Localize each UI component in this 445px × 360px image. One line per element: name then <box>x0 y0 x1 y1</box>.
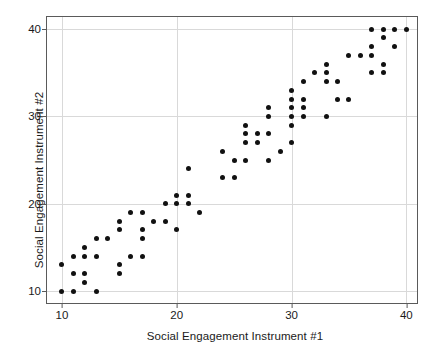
data-point <box>186 201 191 206</box>
data-point <box>163 201 168 206</box>
gridline-horizontal-20 <box>47 204 417 205</box>
data-point <box>232 175 237 180</box>
x-tick-40: 40 <box>400 309 413 321</box>
data-point <box>369 27 374 32</box>
data-point <box>220 175 225 180</box>
scatter-plot-figure: Social Engagement Instrument #2 10203040… <box>0 0 445 360</box>
data-point <box>174 193 179 198</box>
data-point <box>82 254 87 259</box>
x-tick-30: 30 <box>285 309 298 321</box>
data-point <box>82 280 87 285</box>
data-point <box>289 114 294 119</box>
data-point <box>59 289 64 294</box>
data-point <box>94 254 99 259</box>
data-point <box>163 219 168 224</box>
data-point <box>358 53 363 58</box>
gridline-horizontal-10 <box>47 291 417 292</box>
data-point <box>392 27 397 32</box>
x-axis-title: Social Engagement Instrument #1 <box>62 330 408 342</box>
data-point <box>94 289 99 294</box>
data-point <box>289 88 294 93</box>
data-point <box>266 158 271 163</box>
y-tick-10: 10 <box>28 285 41 297</box>
data-point <box>59 262 64 267</box>
data-point <box>335 97 340 102</box>
gridline-vertical-20 <box>177 17 178 303</box>
data-point <box>94 236 99 241</box>
data-point <box>369 53 374 58</box>
data-point <box>266 114 271 119</box>
data-point <box>324 62 329 67</box>
data-point <box>312 70 317 75</box>
data-point <box>71 289 76 294</box>
gridline-vertical-40 <box>406 17 407 303</box>
y-tick-40: 40 <box>28 23 41 35</box>
data-point <box>346 53 351 58</box>
data-point <box>266 131 271 136</box>
data-point <box>301 114 306 119</box>
data-point <box>140 236 145 241</box>
data-point <box>82 245 87 250</box>
data-point <box>381 70 386 75</box>
y-tick-30: 30 <box>28 110 41 122</box>
data-point <box>278 149 283 154</box>
data-point <box>151 219 156 224</box>
data-point <box>324 70 329 75</box>
data-point <box>301 97 306 102</box>
data-point <box>324 114 329 119</box>
data-point <box>369 44 374 49</box>
data-point <box>117 271 122 276</box>
data-point <box>255 140 260 145</box>
plot-panel: 10203040 10203040 <box>46 16 418 304</box>
data-point <box>117 262 122 267</box>
data-point <box>197 210 202 215</box>
data-point <box>301 105 306 110</box>
data-point <box>71 254 76 259</box>
data-point <box>243 140 248 145</box>
data-point <box>381 27 386 32</box>
data-point <box>140 210 145 215</box>
data-point <box>381 62 386 67</box>
data-point <box>174 227 179 232</box>
data-point <box>117 227 122 232</box>
x-tick-10: 10 <box>56 309 69 321</box>
data-point <box>289 97 294 102</box>
data-point <box>243 123 248 128</box>
data-point <box>266 105 271 110</box>
data-point <box>289 123 294 128</box>
data-point <box>255 131 260 136</box>
data-point <box>105 236 110 241</box>
data-point <box>71 271 76 276</box>
data-point <box>82 271 87 276</box>
data-point <box>128 254 133 259</box>
data-point <box>335 79 340 84</box>
gridline-horizontal-40 <box>47 29 417 30</box>
data-point <box>140 254 145 259</box>
data-point <box>174 201 179 206</box>
data-point <box>289 105 294 110</box>
data-point <box>381 35 386 40</box>
data-point <box>186 193 191 198</box>
gridline-vertical-30 <box>292 17 293 303</box>
data-point <box>220 149 225 154</box>
data-point <box>243 158 248 163</box>
data-point <box>289 140 294 145</box>
data-point <box>140 227 145 232</box>
gridline-horizontal-30 <box>47 116 417 117</box>
data-point <box>243 131 248 136</box>
data-point <box>301 79 306 84</box>
data-point <box>369 70 374 75</box>
data-point <box>128 210 133 215</box>
y-tick-20: 20 <box>28 198 41 210</box>
data-point <box>186 166 191 171</box>
data-point <box>346 97 351 102</box>
data-point <box>392 44 397 49</box>
data-point <box>404 27 409 32</box>
gridline-vertical-10 <box>62 17 63 303</box>
data-point <box>324 79 329 84</box>
data-point <box>117 219 122 224</box>
data-point <box>232 158 237 163</box>
x-tick-20: 20 <box>170 309 183 321</box>
